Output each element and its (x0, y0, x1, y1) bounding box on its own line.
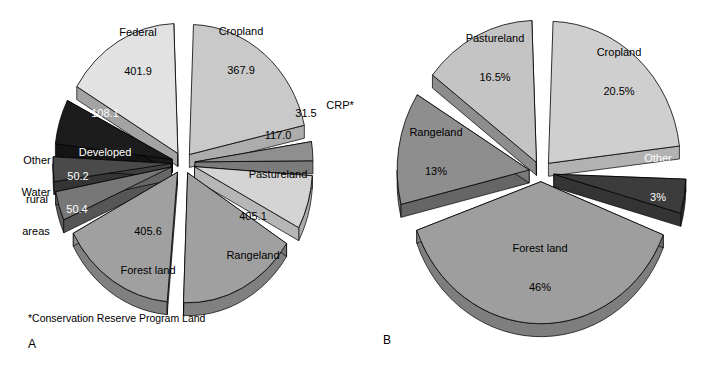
pie-chart-b (0, 0, 719, 369)
figure-canvas: Federal 401.9 Cropland 367.9 31.5 CRP* 1… (0, 0, 719, 369)
pie-slice-cropland (548, 21, 679, 176)
